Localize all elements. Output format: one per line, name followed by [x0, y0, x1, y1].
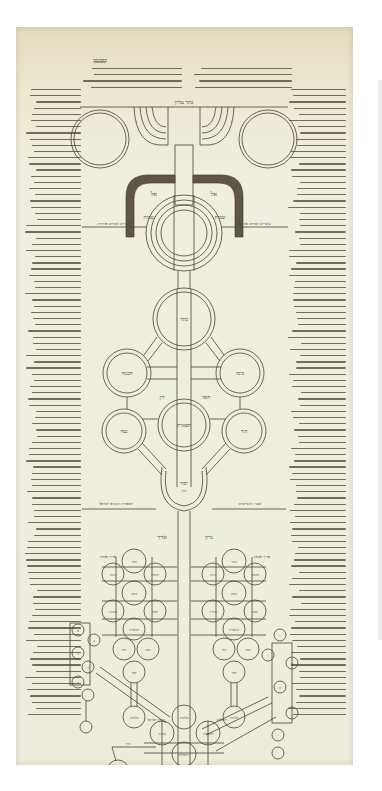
sefira-yesod: יסוד — [180, 480, 189, 486]
edge-strip — [378, 80, 382, 640]
sefirot-diagram: הקדמה כתר עליון אל אל שמות שמות עשרים וש… — [16, 27, 353, 765]
right-tree-node: גבורה — [209, 610, 217, 614]
header-title: הקדמה — [93, 57, 107, 63]
branch-label-right: חסד — [202, 394, 210, 400]
arch-label-left: אל — [150, 190, 158, 197]
side-note-right: שער החמישים — [239, 501, 262, 506]
left-tree-node: חסד — [152, 610, 158, 614]
letter-node: א — [77, 629, 80, 633]
letter-node: ג — [77, 652, 79, 656]
left-tree-node: בינה — [110, 573, 116, 577]
right-tree-title: אריך אנפין — [254, 554, 271, 559]
bottom-label-right: ירושלים — [216, 718, 227, 722]
right-tree-node: בינה — [210, 573, 216, 577]
right-tree-node: נצח — [245, 648, 250, 652]
right-tree-node: יסוד — [231, 671, 237, 675]
sefira-tiferet: תפארת — [177, 422, 191, 428]
sefira-chokhmah: חכמה — [121, 370, 132, 376]
left-tree-node: כתר — [131, 560, 137, 564]
manuscript-scroll: הקדמה כתר עליון אל אל שמות שמות עשרים וש… — [16, 27, 353, 765]
side-label-left: שמות — [144, 214, 155, 220]
yesod-sub: ח״ן — [182, 488, 188, 493]
left-tree-node: תפארת — [129, 628, 139, 632]
left-tree-node: דעת — [131, 592, 137, 596]
trunk-label-right: גרון — [205, 533, 213, 540]
left-tree-node: גבורה — [109, 610, 117, 614]
letter-node: ו — [280, 634, 281, 638]
right-tree-node: תפארת — [229, 628, 239, 632]
right-tree-node: הוד — [222, 648, 227, 652]
branch-label-left: דין — [160, 394, 166, 400]
bottom-tree-node: מלכות — [180, 716, 189, 720]
arch-label-right: אל — [210, 190, 218, 197]
sefira-binah: בינה — [236, 370, 245, 376]
sefira-netzach: נצח — [120, 428, 128, 434]
letter-node: י — [278, 734, 279, 738]
right-tree-node: דעת — [231, 592, 237, 596]
left-tree-node: הוד — [122, 648, 127, 652]
letter-node: ה — [77, 681, 79, 685]
bottom-tree-node: גבורה — [158, 732, 166, 736]
side-label-right: שמות — [215, 214, 226, 220]
bottom-label-left: כנסת ישראל — [146, 718, 165, 722]
bar-label-right: עשרים ושתים אותיות — [237, 221, 271, 226]
left-tree-title: אריך אנפין — [100, 554, 117, 559]
sefira-hod: הוד — [241, 428, 248, 434]
right-tree-node: מלכות — [230, 716, 239, 720]
right-tree-node: חסד — [252, 610, 258, 614]
letter-node: ז — [267, 654, 268, 658]
left-tree-node: נצח — [145, 648, 150, 652]
letter-node: ט — [279, 686, 281, 690]
bottom-label-lower-left: ציון — [126, 742, 131, 746]
left-tree-node: מלכות — [130, 716, 139, 720]
right-tree-node: חכמה — [251, 573, 259, 577]
top-label: כתר עליון — [175, 99, 194, 105]
bottom-tree-node: ירושלים — [178, 753, 189, 757]
right-tree-node: כתר — [231, 560, 237, 564]
bottom-tree-node: תפארת — [203, 732, 213, 736]
sefira-keter: כתר — [180, 316, 189, 322]
left-tree-node: חכמה — [151, 573, 159, 577]
letter-node: ב — [93, 639, 95, 643]
trunk-label-left: ארך — [157, 533, 167, 540]
side-note-left: תפארת הנקרא ישראל — [98, 501, 134, 506]
bar-label-left: עשרים ושתים אותיות — [97, 221, 131, 226]
left-tree-node: יסוד — [131, 671, 137, 675]
letter-node: ד — [87, 666, 89, 670]
letter-node: ח — [291, 662, 293, 666]
